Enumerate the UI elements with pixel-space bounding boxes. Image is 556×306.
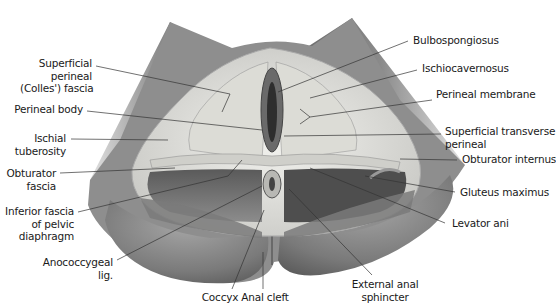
label-perineal-membrane: Perineal membrane xyxy=(436,88,536,101)
label-line: External anal xyxy=(350,278,420,291)
label-line: perineal xyxy=(20,70,92,83)
label-line: Ischiocavernosus xyxy=(422,62,509,75)
label-obturator-internus: Obturator internus xyxy=(462,153,556,166)
label-line: Inferior fascia xyxy=(4,205,74,218)
label-levator-ani: Levator ani xyxy=(452,217,509,230)
label-line: Levator ani xyxy=(452,217,509,230)
label-line: Obturator internus xyxy=(462,153,556,166)
label-line: (Colles') fascia xyxy=(20,82,92,95)
label-ischiocavernosus: Ischiocavernosus xyxy=(422,62,509,75)
label-bulbospongiosus: Bulbospongiosus xyxy=(413,34,499,47)
label-line: Obturator xyxy=(4,167,56,180)
label-external-anal-sphincter: External anal sphincter xyxy=(350,278,420,303)
label-anal-cleft: Anal cleft xyxy=(236,291,294,304)
label-obturator-fascia: Obturator fascia xyxy=(4,167,56,192)
label-line: Bulbospongiosus xyxy=(413,34,499,47)
label-line: sphincter xyxy=(350,291,420,304)
label-line: Perineal membrane xyxy=(436,88,536,101)
label-line: Ischial xyxy=(10,132,66,145)
label-line: Anal cleft xyxy=(236,291,294,304)
label-ischial-tuberosity: Ischial tuberosity xyxy=(10,132,66,157)
label-gluteus-maximus: Gluteus maximus xyxy=(460,186,549,199)
label-line: lig. xyxy=(30,269,113,282)
label-line: perineal xyxy=(445,138,555,151)
label-perineal-body: Perineal body xyxy=(10,103,83,116)
label-line: of pelvic xyxy=(4,218,74,231)
label-line: Gluteus maximus xyxy=(460,186,549,199)
label-inferior-fascia-pelvic-diaphragm: Inferior fascia of pelvic diaphragm xyxy=(4,205,74,243)
label-anococcygeal-lig: Anococcygeal lig. xyxy=(30,256,113,281)
label-line: fascia xyxy=(4,180,56,193)
label-line: Superficial xyxy=(20,57,92,70)
label-superficial-perineal-fascia: Superficial perineal (Colles') fascia xyxy=(20,57,92,95)
label-line: tuberosity xyxy=(10,145,66,158)
label-line: diaphragm xyxy=(4,230,74,243)
label-line: Superficial transverse xyxy=(445,125,555,138)
label-line: Anococcygeal xyxy=(30,256,113,269)
label-superficial-transverse-perineal: Superficial transverse perineal xyxy=(445,125,555,150)
label-line: Perineal body xyxy=(10,103,83,116)
